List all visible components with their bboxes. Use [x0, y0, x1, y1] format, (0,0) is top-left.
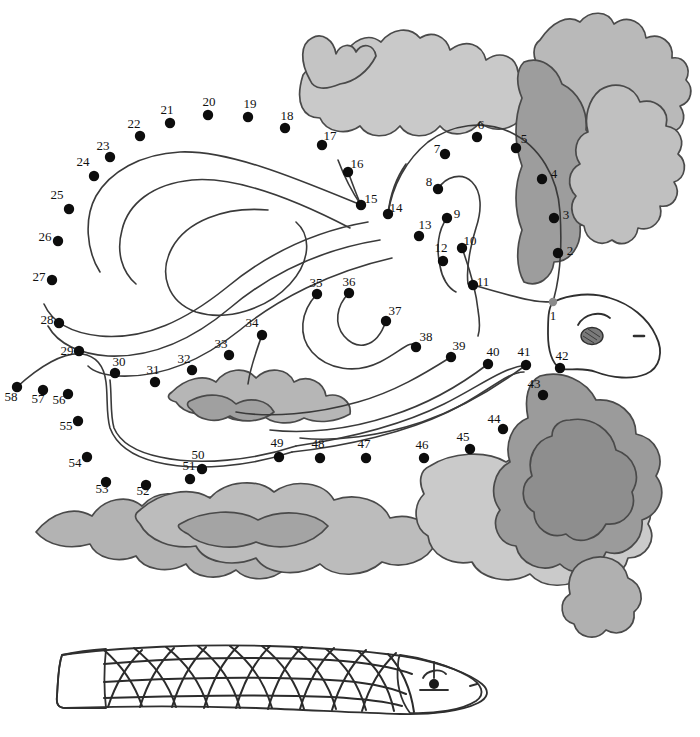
puzzle-dot-56[interactable]: 56 — [53, 389, 74, 407]
dot-marker-9[interactable] — [442, 213, 452, 223]
dot-label-24: 24 — [77, 154, 91, 169]
puzzle-dot-51[interactable]: 51 — [183, 458, 196, 484]
puzzle-dot-7[interactable]: 7 — [434, 141, 450, 159]
dot-marker-1[interactable] — [549, 298, 557, 306]
dot-marker-35[interactable] — [312, 289, 322, 299]
dot-marker-36[interactable] — [344, 288, 354, 298]
dot-marker-27[interactable] — [47, 275, 57, 285]
dot-marker-42[interactable] — [555, 363, 565, 373]
dot-marker-28[interactable] — [54, 318, 64, 328]
puzzle-dot-38[interactable]: 38 — [411, 329, 433, 352]
puzzle-dot-54[interactable]: 54 — [69, 452, 93, 470]
dot-marker-7[interactable] — [440, 149, 450, 159]
dot-marker-33[interactable] — [224, 350, 234, 360]
dot-marker-3[interactable] — [549, 213, 559, 223]
dot-marker-40[interactable] — [483, 359, 493, 369]
dot-marker-25[interactable] — [64, 204, 74, 214]
dot-label-42: 42 — [556, 348, 569, 363]
puzzle-dot-52[interactable]: 52 — [137, 480, 152, 498]
puzzle-dot-12[interactable]: 12 — [435, 240, 449, 266]
dot-marker-29[interactable] — [74, 346, 84, 356]
dot-marker-30[interactable] — [110, 368, 120, 378]
dot-label-22: 22 — [128, 116, 141, 131]
dot-marker-50[interactable] — [197, 464, 207, 474]
puzzle-dot-57[interactable]: 57 — [32, 385, 49, 406]
puzzle-dot-19[interactable]: 19 — [243, 96, 257, 122]
dot-marker-20[interactable] — [203, 110, 213, 120]
puzzle-dot-27[interactable]: 27 — [33, 269, 58, 285]
puzzle-dot-31[interactable]: 31 — [147, 362, 161, 387]
dot-marker-45[interactable] — [465, 444, 475, 454]
dot-marker-4[interactable] — [537, 174, 547, 184]
puzzle-dot-32[interactable]: 32 — [178, 351, 198, 375]
puzzle-dot-37[interactable]: 37 — [381, 303, 402, 326]
puzzle-dot-8[interactable]: 8 — [426, 174, 443, 194]
puzzle-dot-53[interactable]: 53 — [96, 477, 112, 496]
puzzle-dot-18[interactable]: 18 — [280, 108, 294, 133]
dot-marker-12[interactable] — [438, 256, 448, 266]
dot-marker-2[interactable] — [553, 248, 563, 258]
puzzle-dot-1[interactable]: 1 — [549, 298, 557, 323]
puzzle-dot-28[interactable]: 28 — [41, 312, 65, 328]
dot-label-55: 55 — [60, 418, 73, 433]
puzzle-dot-16[interactable]: 16 — [343, 156, 364, 177]
dot-marker-5[interactable] — [511, 143, 521, 153]
puzzle-dot-22[interactable]: 22 — [128, 116, 146, 141]
dot-marker-13[interactable] — [414, 231, 424, 241]
dot-label-3: 3 — [563, 207, 570, 222]
puzzle-dot-9[interactable]: 9 — [442, 206, 460, 223]
puzzle-dot-10[interactable]: 10 — [457, 233, 477, 253]
dot-marker-19[interactable] — [243, 112, 253, 122]
puzzle-dot-47[interactable]: 47 — [358, 436, 372, 463]
dot-marker-46[interactable] — [419, 453, 429, 463]
puzzle-dot-21[interactable]: 21 — [161, 102, 176, 128]
dots-layer[interactable]: 1234567891011121314151617181920212223242… — [5, 94, 574, 498]
puzzle-dot-17[interactable]: 17 — [317, 128, 337, 150]
dot-marker-34[interactable] — [257, 330, 267, 340]
puzzle-dot-25[interactable]: 25 — [51, 187, 75, 214]
dot-marker-49[interactable] — [274, 452, 284, 462]
dot-label-15: 15 — [365, 191, 378, 206]
dot-marker-23[interactable] — [105, 152, 115, 162]
puzzle-dot-29[interactable]: 29 — [61, 343, 85, 358]
dot-marker-6[interactable] — [472, 132, 482, 142]
dot-marker-22[interactable] — [135, 131, 145, 141]
dot-marker-8[interactable] — [433, 184, 443, 194]
puzzle-dot-14[interactable]: 14 — [383, 200, 403, 219]
dot-marker-39[interactable] — [446, 352, 456, 362]
puzzle-dot-40[interactable]: 40 — [483, 344, 500, 369]
puzzle-dot-20[interactable]: 20 — [203, 94, 216, 120]
dot-label-56: 56 — [53, 392, 67, 407]
dot-marker-41[interactable] — [521, 360, 531, 370]
puzzle-dot-24[interactable]: 24 — [77, 154, 100, 181]
puzzle-dot-34[interactable]: 34 — [246, 315, 268, 340]
dot-marker-26[interactable] — [53, 236, 63, 246]
dot-label-2: 2 — [567, 243, 574, 258]
puzzle-dot-39[interactable]: 39 — [446, 338, 466, 362]
dot-marker-55[interactable] — [73, 416, 83, 426]
puzzle-dot-35[interactable]: 35 — [310, 275, 323, 299]
dot-marker-31[interactable] — [150, 377, 160, 387]
puzzle-dot-15[interactable]: 15 — [356, 191, 378, 210]
dot-marker-43[interactable] — [538, 390, 548, 400]
puzzle-dot-55[interactable]: 55 — [60, 416, 84, 433]
dot-marker-51[interactable] — [185, 474, 195, 484]
dot-marker-21[interactable] — [165, 118, 175, 128]
dot-marker-24[interactable] — [89, 171, 99, 181]
puzzle-dot-26[interactable]: 26 — [39, 229, 64, 246]
puzzle-dot-48[interactable]: 48 — [312, 436, 326, 463]
dot-marker-48[interactable] — [315, 453, 325, 463]
puzzle-dot-58[interactable]: 58 — [5, 382, 23, 404]
puzzle-dot-44[interactable]: 44 — [488, 411, 509, 434]
dot-marker-18[interactable] — [280, 123, 290, 133]
puzzle-dot-45[interactable]: 45 — [457, 429, 476, 454]
puzzle-dot-13[interactable]: 13 — [414, 217, 432, 241]
puzzle-dot-36[interactable]: 36 — [343, 274, 357, 298]
puzzle-dot-23[interactable]: 23 — [97, 138, 116, 162]
dot-marker-54[interactable] — [82, 452, 92, 462]
dot-marker-47[interactable] — [361, 453, 371, 463]
dot-marker-32[interactable] — [187, 365, 197, 375]
puzzle-dot-46[interactable]: 46 — [416, 437, 430, 463]
puzzle-dot-33[interactable]: 33 — [215, 336, 235, 360]
puzzle-dot-30[interactable]: 30 — [110, 354, 126, 378]
